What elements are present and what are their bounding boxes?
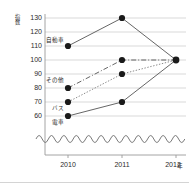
series-label-train: 電車 [52,118,64,126]
series-label-automobile: 自動車 [46,36,63,44]
series-label-bus: バス [52,104,64,112]
series-label-others: その他 [46,76,63,84]
series-line-bus [68,60,176,102]
y-tick-label-120: 120 [16,28,42,35]
marker-automobile-2010 [65,43,71,49]
x-tick-label-2011: 2011 [102,161,142,168]
bottom-divider [0,182,189,183]
marker-converged-2012 [173,57,180,64]
x-axis-unit-label: 年 [177,162,183,170]
marker-automobile-2011 [119,15,125,21]
y-tick-label-70: 70 [16,98,42,105]
y-tick-label-110: 110 [16,42,42,49]
marker-train-2011 [119,99,125,105]
y-tick-label-130: 130 [16,14,42,21]
y-tick-label-60: 60 [16,112,42,119]
y-tick-label-90: 90 [16,70,42,77]
marker-bus-2011 [119,71,125,77]
series-line-automobile [68,18,176,60]
y-tick-label-100: 100 [16,56,42,63]
marker-train-2010 [65,113,71,119]
marker-others-2011 [119,57,125,63]
series-markers [65,15,180,119]
marker-bus-2010 [65,99,71,105]
axis-break-wave-icon [36,136,185,143]
line-chart-figure: 指数 130 120 110 100 90 80 70 60 2010 2011… [0,0,189,185]
y-tick-label-80: 80 [16,84,42,91]
x-tick-label-2012: 2012 [153,161,189,168]
marker-others-2010 [65,85,71,91]
x-tick-label-2010: 2010 [48,161,88,168]
